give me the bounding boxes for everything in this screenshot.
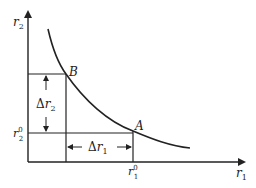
delta-r2-label: Δr2 [36,97,56,113]
y-axis-label: r2 [13,15,24,31]
indifference-curve-diagram: r2 r1 B A Δr2 Δr1 r02 r01 [0,0,256,188]
y-tick-r2-zero: r02 [13,126,23,143]
x-axis-label: r1 [236,166,247,182]
indifference-curve [48,29,190,148]
x-tick-r1-zero: r01 [128,164,138,181]
point-a-label: A [134,119,144,133]
point-b-label: B [68,65,78,79]
delta-r1-label: Δr1 [88,140,108,156]
